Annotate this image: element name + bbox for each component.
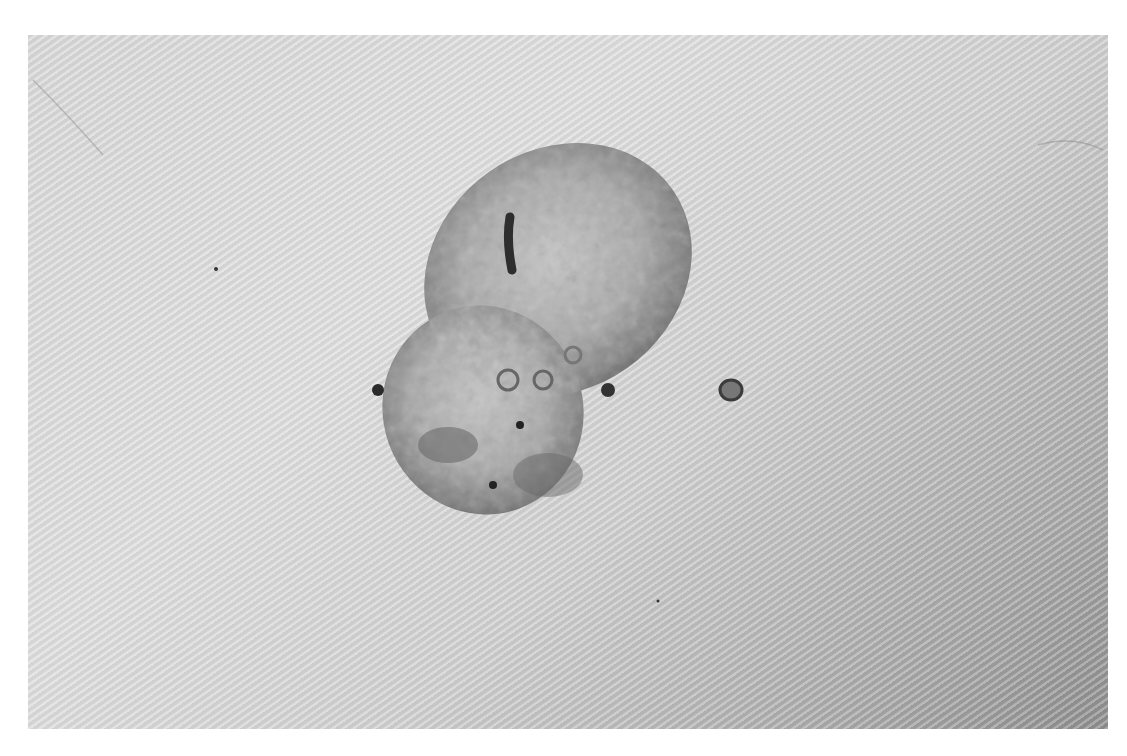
lesion-illustration: [28, 35, 1108, 729]
clinical-photo: [28, 35, 1108, 729]
satellite-papule: [720, 380, 742, 400]
lesion: [353, 91, 741, 542]
